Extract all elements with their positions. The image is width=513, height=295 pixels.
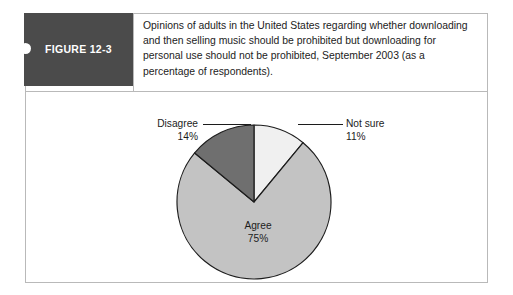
tab-divider bbox=[133, 14, 134, 91]
caption-line-2: and then selling music should be prohibi… bbox=[143, 33, 477, 48]
caption-line-4: percentage of respondents). bbox=[143, 64, 477, 79]
figure-frame: FIGURE 12-3 Opinions of adults in the Un… bbox=[25, 13, 488, 283]
leader-line-disagree bbox=[203, 124, 251, 125]
pie-slices bbox=[177, 125, 331, 279]
pie-label-disagree-value: 14% bbox=[136, 131, 198, 144]
leader-line-not-sure bbox=[298, 124, 343, 125]
pie-label-not-sure: Not sure 11% bbox=[346, 118, 385, 143]
pie-chart-area: Disagree 14% Not sure 11% Agree 75% bbox=[26, 92, 487, 282]
pie-label-agree-value: 75% bbox=[222, 233, 294, 246]
pie-chart-svg bbox=[26, 92, 487, 282]
figure-caption: Opinions of adults in the United States … bbox=[143, 18, 477, 79]
figure-number-label: FIGURE 12-3 bbox=[24, 43, 133, 55]
pie-label-agree-name: Agree bbox=[244, 220, 271, 231]
figure-header: FIGURE 12-3 Opinions of adults in the Un… bbox=[26, 14, 488, 92]
caption-line-3: personal use should not be prohibited, S… bbox=[143, 48, 477, 63]
pie-label-disagree-name: Disagree bbox=[157, 118, 198, 129]
caption-line-1: Opinions of adults in the United States … bbox=[143, 18, 477, 33]
pie-label-agree: Agree 75% bbox=[222, 220, 294, 245]
pie-label-not-sure-value: 11% bbox=[346, 131, 385, 144]
figure-number-tab: FIGURE 12-3 bbox=[24, 13, 133, 86]
pie-label-not-sure-name: Not sure bbox=[346, 118, 385, 129]
pie-label-disagree: Disagree 14% bbox=[136, 118, 198, 143]
